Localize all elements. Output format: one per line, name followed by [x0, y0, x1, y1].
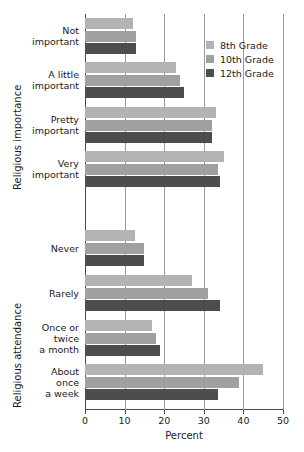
bar	[85, 300, 220, 311]
legend-label: 8th Grade	[220, 40, 268, 51]
legend-label: 10th Grade	[220, 54, 274, 65]
bar	[85, 151, 224, 162]
x-tick-label: 20	[152, 415, 176, 426]
x-tick-label: 10	[113, 415, 137, 426]
category-label: A littleimportant	[1, 69, 79, 91]
legend-item[interactable]: 12th Grade	[206, 66, 274, 80]
x-tick-label: 40	[231, 415, 255, 426]
bar	[85, 176, 220, 187]
legend-swatch-icon	[206, 69, 214, 77]
x-tick-mark	[164, 410, 165, 414]
x-axis-tick-labels: 01020304050	[0, 415, 304, 429]
x-tick-label: 0	[73, 415, 97, 426]
category-label: Veryimportant	[1, 158, 79, 180]
bar	[85, 389, 218, 400]
bar	[85, 333, 156, 344]
category-label: Notimportant	[1, 25, 79, 47]
x-tick-label: 30	[192, 415, 216, 426]
bar	[85, 364, 263, 375]
bar	[85, 230, 135, 241]
category-label: Never	[1, 243, 79, 254]
grouped-bar-chart: Religious importance Religious attendanc…	[0, 0, 304, 452]
x-axis-title: Percent	[85, 430, 283, 441]
bar	[85, 132, 212, 143]
bar	[85, 87, 184, 98]
bar	[85, 320, 152, 331]
legend-swatch-icon	[206, 41, 214, 49]
legend-item[interactable]: 8th Grade	[206, 38, 274, 52]
bar	[85, 107, 216, 118]
legend-item[interactable]: 10th Grade	[206, 52, 274, 66]
gridline	[204, 14, 205, 410]
bar	[85, 288, 208, 299]
x-tick-mark	[283, 410, 284, 414]
bar	[85, 275, 192, 286]
gridline	[164, 14, 165, 410]
x-tick-mark	[125, 410, 126, 414]
category-label: Aboutoncea week	[1, 366, 79, 399]
x-tick-mark	[204, 410, 205, 414]
category-label: Prettyimportant	[1, 114, 79, 136]
bar	[85, 62, 176, 73]
category-label-column: NotimportantA littleimportantPrettyimpor…	[0, 14, 82, 410]
x-axis-line	[85, 409, 284, 410]
bar	[85, 164, 218, 175]
legend-label: 12th Grade	[220, 68, 274, 79]
legend-swatch-icon	[206, 55, 214, 63]
bar	[85, 255, 144, 266]
legend: 8th Grade10th Grade12th Grade	[206, 38, 274, 80]
bar	[85, 31, 136, 42]
gridline	[283, 14, 284, 410]
bar	[85, 43, 136, 54]
x-tick-label: 50	[271, 415, 295, 426]
bar	[85, 120, 212, 131]
bar	[85, 18, 133, 29]
bar	[85, 345, 160, 356]
x-tick-mark	[85, 410, 86, 414]
category-label: Once ortwicea month	[1, 322, 79, 355]
x-tick-mark	[243, 410, 244, 414]
category-label: Rarely	[1, 288, 79, 299]
bar	[85, 75, 180, 86]
bar	[85, 377, 239, 388]
bar	[85, 243, 144, 254]
